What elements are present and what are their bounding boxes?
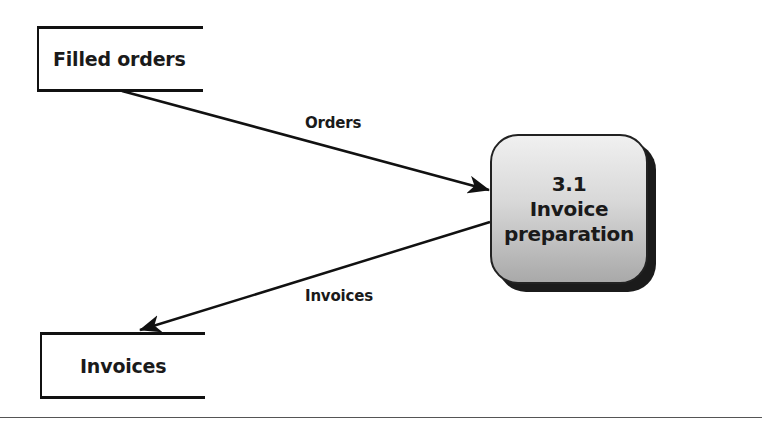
process-invoice-preparation: 3.1 Invoice preparation bbox=[490, 134, 648, 284]
flow-label-invoices: Invoices bbox=[305, 287, 373, 305]
dfd-canvas: Filled orders Invoices 3.1 Invoice prepa… bbox=[0, 0, 762, 431]
data-store-label: Filled orders bbox=[53, 48, 186, 70]
orders-flow-arrow bbox=[122, 91, 489, 190]
data-store-filled-orders: Filled orders bbox=[37, 26, 203, 92]
process-name-line2: preparation bbox=[504, 222, 634, 247]
process-number: 3.1 bbox=[552, 172, 587, 197]
process-name-line1: Invoice bbox=[530, 197, 609, 222]
bottom-divider bbox=[0, 417, 762, 418]
data-store-invoices: Invoices bbox=[40, 332, 205, 399]
invoices-flow-arrow bbox=[140, 222, 490, 330]
data-store-label: Invoices bbox=[80, 355, 166, 377]
flow-label-orders: Orders bbox=[305, 114, 361, 132]
